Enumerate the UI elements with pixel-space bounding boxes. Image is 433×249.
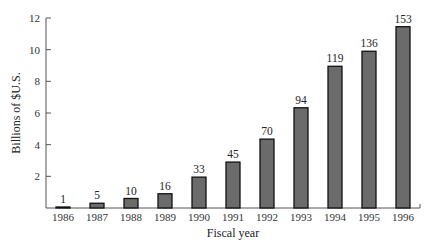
x-tick-label: 1993: [290, 211, 313, 223]
y-axis-title: Billions of $U.S.: [9, 72, 23, 153]
bar-group-1986: 1: [56, 193, 70, 208]
x-tick-label: 1996: [392, 211, 415, 223]
bar-value-label: 16: [159, 180, 171, 192]
bar: [158, 194, 172, 208]
x-tick-label: 1987: [86, 211, 109, 223]
bar-group-1989: 16: [158, 180, 172, 208]
bar: [56, 207, 70, 208]
bar: [192, 177, 206, 208]
bar-value-label: 119: [327, 52, 344, 64]
bar: [362, 51, 376, 208]
y-tick-label: 2: [35, 170, 41, 182]
bar-value-label: 45: [227, 148, 239, 160]
bar: [90, 203, 104, 208]
bar: [294, 108, 308, 208]
bar-value-label: 10: [125, 185, 137, 197]
x-tick-label: 1991: [222, 211, 244, 223]
bar-group-1994: 119: [327, 52, 344, 208]
x-tick-label: 1994: [324, 211, 347, 223]
x-tick-label: 1992: [256, 211, 278, 223]
y-tick-label: 6: [35, 107, 41, 119]
bar: [124, 199, 138, 209]
bar-group-1996: 153: [394, 13, 412, 208]
y-tick-label: 8: [35, 75, 41, 87]
bar-group-1995: 136: [360, 37, 378, 208]
y-tick-label: 10: [29, 44, 41, 56]
bar-group-1990: 33: [192, 163, 206, 208]
y-tick-label: 4: [35, 139, 41, 151]
bar: [396, 27, 410, 208]
bar-value-label: 33: [193, 163, 205, 175]
bars: 15101633457094119136153: [56, 13, 412, 208]
x-tick-label: 1989: [154, 211, 177, 223]
y-tick-label: 12: [29, 12, 40, 24]
x-axis-title: Fiscal year: [207, 226, 259, 240]
bar: [328, 66, 342, 208]
x-tick-label: 1990: [188, 211, 211, 223]
bar-value-label: 153: [394, 13, 412, 25]
bar-chart: 24681012 1986198719881989199019911992199…: [0, 0, 433, 249]
bar: [226, 162, 240, 208]
bar-group-1987: 5: [90, 189, 104, 208]
y-axis: 24681012: [29, 12, 51, 208]
bar-group-1988: 10: [124, 185, 138, 209]
x-tick-label: 1995: [358, 211, 381, 223]
x-tick-label: 1988: [120, 211, 143, 223]
bar-value-label: 1: [60, 193, 66, 205]
bar-group-1992: 70: [260, 125, 274, 208]
bar-value-label: 94: [295, 94, 307, 106]
bar-value-label: 70: [261, 125, 273, 137]
bar: [260, 139, 274, 208]
bar-value-label: 136: [360, 37, 378, 49]
bar-group-1993: 94: [294, 94, 308, 208]
bar-group-1991: 45: [226, 148, 240, 208]
x-tick-label: 1986: [52, 211, 75, 223]
bar-value-label: 5: [94, 189, 100, 201]
